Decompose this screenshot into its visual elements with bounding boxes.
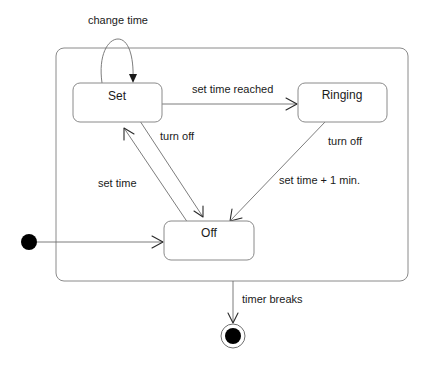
arrowhead-filled-icon [129, 74, 137, 83]
state-name-off: Off [201, 226, 217, 240]
label-turn-off-set: turn off [160, 130, 195, 142]
transition-set-turn-off: turn off [138, 118, 203, 217]
label-set-time-reached: set time reached [192, 83, 273, 95]
transition-ringing-off: turn off set time + 1 min. [230, 122, 363, 221]
initial-state-icon[interactable] [21, 234, 37, 250]
final-state-icon[interactable] [221, 324, 245, 348]
state-name-set: Set [108, 89, 127, 103]
state-ringing[interactable]: Ringing [298, 83, 387, 122]
state-name-ringing: Ringing [322, 88, 363, 102]
state-off[interactable]: Off [164, 221, 254, 260]
state-set[interactable]: Set [73, 83, 162, 122]
label-set-time-plus-1-min: set time + 1 min. [279, 174, 360, 186]
label-timer-breaks: timer breaks [242, 293, 303, 305]
transition-set-time-reached: set time reached [162, 83, 297, 110]
state-diagram: change time set time reached turn off se… [0, 0, 426, 369]
label-change-time: change time [88, 14, 148, 26]
label-set-time: set time [98, 177, 137, 189]
label-turn-off-ringing: turn off [328, 135, 363, 147]
transition-timer-breaks: timer breaks [228, 281, 303, 323]
